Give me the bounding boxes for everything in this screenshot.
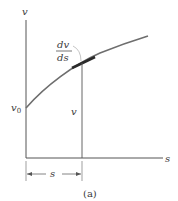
- v-s-diagram: v s v0 v dv ds s (a): [0, 0, 178, 201]
- ordinate-label: v: [71, 106, 77, 117]
- v0-sub: 0: [17, 107, 21, 115]
- slope-numerator: dv: [57, 39, 69, 50]
- slope-leader: [73, 46, 81, 61]
- v0-label: v0: [11, 102, 21, 115]
- arrowhead-right-icon: [76, 172, 81, 176]
- tangent-segment: [72, 57, 95, 68]
- slope-denominator: ds: [57, 52, 69, 63]
- figure-caption: (a): [83, 188, 97, 199]
- arrowhead-left-icon: [27, 172, 32, 176]
- v-of-s-curve: [26, 36, 148, 108]
- v-axis-label: v: [22, 6, 28, 17]
- s-axis-label: s: [165, 153, 170, 164]
- s-dimension-label: s: [50, 168, 55, 179]
